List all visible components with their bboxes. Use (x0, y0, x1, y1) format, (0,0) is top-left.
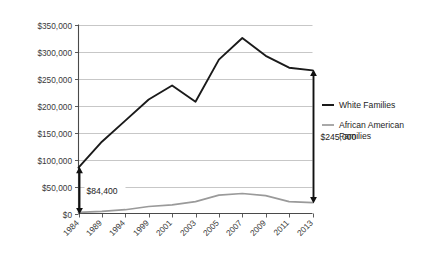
annotation-group: $84,400$245,000 (76, 70, 364, 215)
gridline-group (79, 26, 313, 188)
x-tick-label: 2007 (224, 218, 244, 238)
legend-label: White Families (339, 100, 395, 110)
y-tick-label: $100,000 (37, 156, 72, 166)
y-tick-label: $350,000 (37, 21, 72, 31)
y-tick-label: $0 (63, 210, 73, 220)
x-tick-label: 2003 (178, 218, 198, 238)
y-tick-label: $250,000 (37, 75, 72, 85)
legend-label-continued: Families (339, 131, 371, 141)
x-axis-tick-marks (80, 214, 314, 218)
x-tick-label: 2001 (154, 218, 174, 238)
x-tick-label: 2005 (201, 218, 221, 238)
x-tick-label: 2011 (271, 218, 291, 238)
x-tick-label: 1989 (84, 218, 104, 238)
x-tick-label: 2013 (295, 218, 315, 238)
annotation-arrow-head-top (76, 167, 83, 173)
wealth-gap-line-chart: $0$50,000$100,000$150,000$200,000$250,00… (0, 0, 432, 255)
y-tick-label: $300,000 (37, 48, 72, 58)
x-tick-label: 1984 (61, 218, 81, 238)
y-axis-tick-labels: $0$50,000$100,000$150,000$200,000$250,00… (37, 21, 72, 220)
y-tick-label: $200,000 (37, 102, 72, 112)
x-tick-label: 1999 (131, 218, 151, 238)
y-tick-label: $150,000 (37, 129, 72, 139)
x-tick-label: 2009 (248, 218, 268, 238)
annotation-label-gap-1984: $84,400 (87, 186, 118, 196)
x-axis-tick-labels: 1984198919941999200120032005200720092011… (61, 218, 315, 238)
legend-label: African American (339, 120, 404, 130)
y-tick-label: $50,000 (42, 183, 72, 193)
series-line-white-families (79, 38, 313, 168)
chart-canvas: $0$50,000$100,000$150,000$200,000$250,00… (0, 0, 432, 255)
x-tick-label: 1994 (107, 218, 127, 238)
